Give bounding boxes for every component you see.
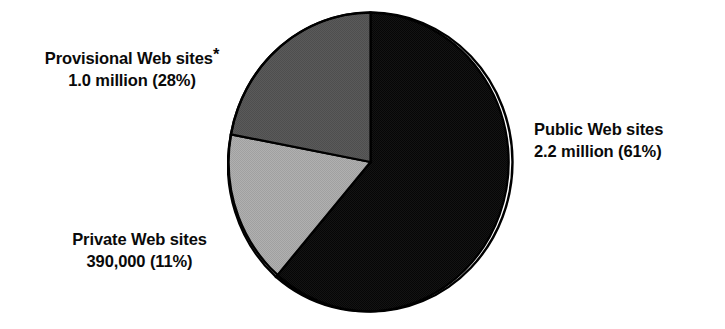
pie-label-provisional-line1: Provisional Web sites* xyxy=(14,47,250,69)
pie-chart-graphic xyxy=(227,11,514,313)
pie-slice-provisional[interactable] xyxy=(231,12,371,162)
pie-label-provisional-line2: 1.0 million (28%) xyxy=(14,69,250,91)
pie-label-public-line1: Public Web sites xyxy=(534,118,714,140)
pie-label-public: Public Web sites 2.2 million (61%) xyxy=(534,118,714,162)
pie-label-private-line1: Private Web sites xyxy=(42,228,237,250)
footnote-asterisk: * xyxy=(213,45,219,63)
pie-label-public-line2: 2.2 million (61%) xyxy=(534,140,714,162)
pie-label-provisional: Provisional Web sites* 1.0 million (28%) xyxy=(14,47,250,91)
pie-chart-figure: Provisional Web sites* 1.0 million (28%)… xyxy=(0,0,725,329)
pie-svg xyxy=(227,11,514,313)
pie-label-private-line2: 390,000 (11%) xyxy=(42,250,237,272)
pie-label-private: Private Web sites 390,000 (11%) xyxy=(42,228,237,272)
